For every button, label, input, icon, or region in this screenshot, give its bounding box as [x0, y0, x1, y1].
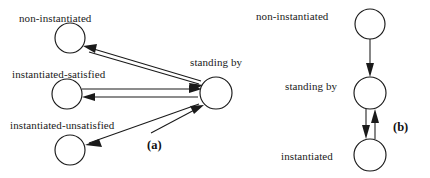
node-a-instantiated-unsatisfied[interactable] — [55, 135, 85, 165]
node-a-non-instantiated[interactable] — [55, 23, 85, 53]
node-b-non-instantiated[interactable] — [355, 9, 385, 39]
label-a-standing-by: standing by — [190, 56, 242, 68]
label-b-standing-by: standing by — [285, 80, 337, 92]
edge-standingby-instantiatedsatisfied — [82, 85, 202, 101]
diagram-svg — [0, 0, 430, 178]
label-a-instantiated-unsatisfied: instantiated-unsatisfied — [10, 119, 114, 131]
node-a-standing-by[interactable] — [200, 77, 232, 109]
edge-b-standingby-instantiated — [362, 109, 379, 139]
caption-panel-a: (a) — [147, 139, 162, 152]
label-a-instantiated-satisfied: instantiated-satisfied — [12, 68, 105, 80]
figure-canvas: non-instantiated instantiated-satisfied … — [0, 0, 430, 178]
node-b-instantiated[interactable] — [354, 139, 386, 171]
node-a-instantiated-satisfied[interactable] — [52, 79, 82, 109]
label-a-non-instantiated: non-instantiated — [19, 12, 91, 24]
node-b-standing-by[interactable] — [354, 77, 386, 109]
caption-panel-b: (b) — [393, 121, 408, 134]
label-b-instantiated: instantiated — [281, 150, 333, 162]
label-b-non-instantiated: non-instantiated — [256, 10, 328, 22]
edge-b-noninstantiated-standingby — [366, 39, 374, 77]
